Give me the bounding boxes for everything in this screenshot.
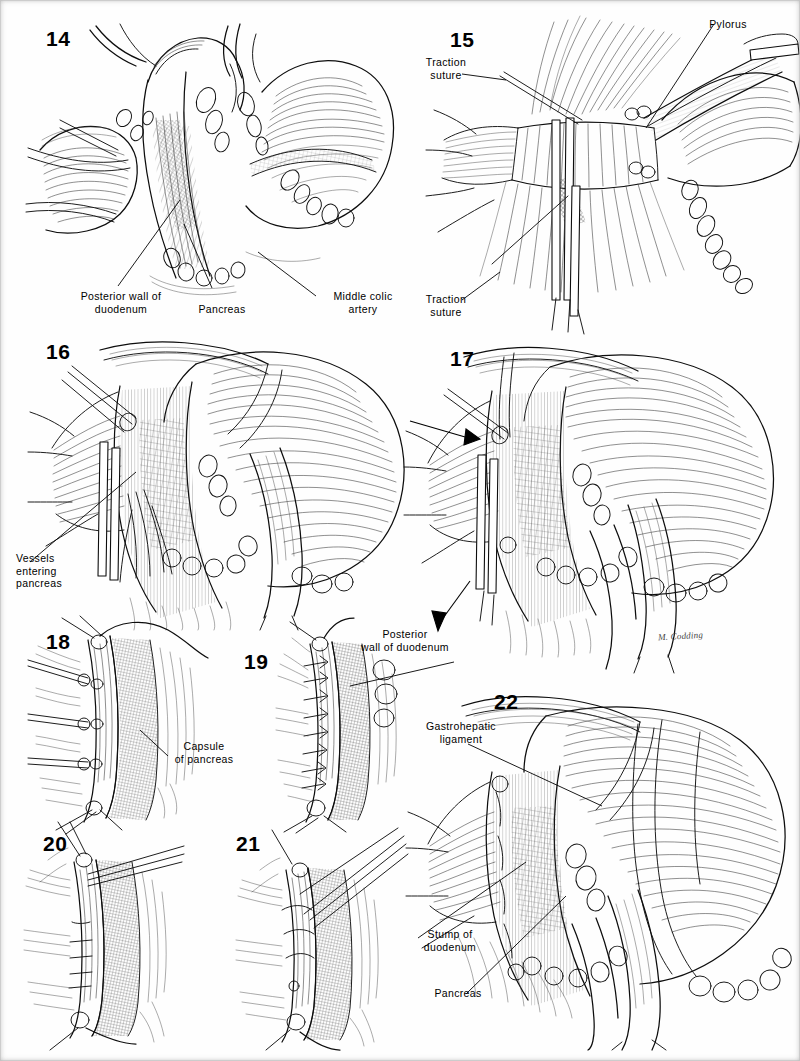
figure-15-clamp-lower <box>570 186 580 316</box>
figure-20-number: 20 <box>43 832 67 856</box>
figure-22-number: 22 <box>494 690 518 714</box>
figure-20-drawing <box>0 822 210 1052</box>
figure-14-label-middle-colic-artery: Middle colic artery <box>322 290 404 315</box>
figure-21-number: 21 <box>236 832 260 856</box>
figure-17-arrow-up <box>410 421 480 445</box>
figure-20: 20 <box>0 822 210 1052</box>
figure-22: 22 <box>400 680 800 1050</box>
figure-14-label-pancreas: Pancreas <box>182 303 262 316</box>
figure-15-label-pylorus: Pylorus <box>690 18 766 31</box>
figure-16-label-vessels-entering-pancreas: Vessels entering pancreas <box>16 552 96 590</box>
figure-16: 16 <box>0 330 420 630</box>
figure-22-label-gastrohepatic-ligament: Gastrohepatic ligament <box>406 720 516 745</box>
figure-18-drawing <box>0 618 250 828</box>
figure-14-leader-middle-colic <box>258 252 316 296</box>
figure-15: 15 <box>400 0 800 335</box>
figure-14-number: 14 <box>46 27 70 51</box>
figure-19-number: 19 <box>244 650 268 674</box>
figure-16-number: 16 <box>46 340 70 364</box>
illustration-plate: 14 <box>0 0 800 1061</box>
figure-15-label-traction-suture-upper: Traction suture <box>412 56 480 81</box>
figure-18-number: 18 <box>46 630 70 654</box>
figure-17-number: 17 <box>450 347 474 371</box>
figure-19-label-posterior-wall-of-duodenum: Posterior wall of duodenum <box>342 628 468 653</box>
figure-21-drawing <box>200 822 415 1052</box>
figure-14: 14 <box>0 0 420 330</box>
figure-15-label-traction-suture-lower: Traction suture <box>412 293 480 318</box>
figure-22-label-stump-of-duodenum: Stump of duodenum <box>402 928 498 953</box>
figure-14-label-posterior-wall: Posterior wall of duodenum <box>56 290 186 315</box>
figure-18: 18 <box>0 618 250 828</box>
figure-21: 21 <box>200 822 415 1052</box>
figure-15-number: 15 <box>450 28 474 52</box>
figure-22-label-pancreas: Pancreas <box>418 987 498 1000</box>
